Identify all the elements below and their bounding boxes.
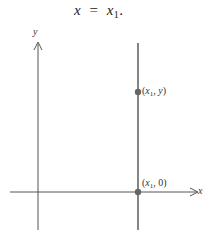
point-label-x1-0: (x1, 0): [142, 177, 167, 190]
y-axis-label: y: [33, 26, 37, 37]
point-label-x1-y: (x1, y): [142, 85, 166, 98]
point-x1-y: [135, 89, 141, 95]
x-axis-label: x: [198, 185, 202, 196]
coordinate-plane: [0, 0, 205, 237]
point-x1-0: [135, 189, 141, 195]
